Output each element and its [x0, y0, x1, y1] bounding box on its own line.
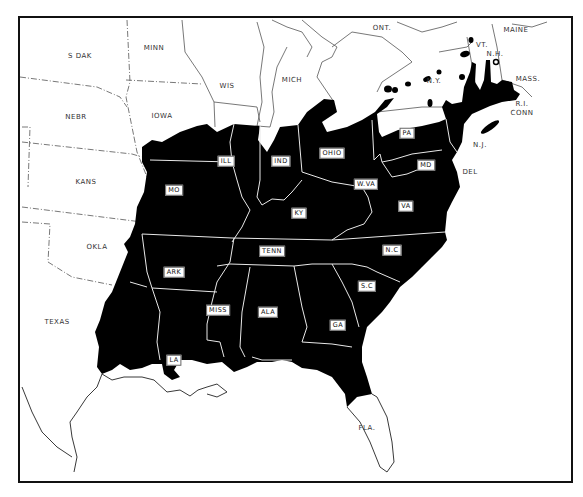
state-label-maine: MAINE	[503, 27, 528, 34]
great-lakes-outlines	[182, 20, 547, 127]
state-label-ark: ARK	[164, 267, 185, 278]
state-label-wis: WIS	[220, 83, 235, 90]
state-label-del: DEL	[462, 169, 477, 176]
coastline	[22, 374, 394, 472]
state-label-minn: MINN	[144, 45, 165, 52]
state-label-mich: MICH	[282, 77, 302, 84]
state-label-nj: N.J.	[473, 142, 487, 149]
state-label-miss: MISS	[206, 305, 230, 316]
state-label-okla: OKLA	[87, 244, 108, 251]
state-label-iowa: IOWA	[152, 113, 173, 120]
state-label-nebr: NEBR	[65, 114, 86, 121]
state-label-fla: FLA.	[359, 425, 376, 432]
state-label-nh: N.H.	[487, 51, 504, 58]
state-label-conn: CONN	[511, 110, 534, 117]
state-label-ind: IND	[271, 156, 290, 167]
state-label-wva: W.VA	[354, 179, 378, 190]
state-label-ont: ONT.	[373, 25, 391, 32]
state-label-texas: TEXAS	[44, 319, 69, 326]
state-label-kans: KANS	[76, 179, 97, 186]
state-label-pa: PA	[400, 128, 415, 139]
state-label-ala: ALA	[258, 307, 278, 318]
state-label-vt: VT.	[476, 42, 488, 49]
state-label-md: MD	[417, 160, 435, 171]
state-label-ny: N.Y.	[427, 78, 442, 85]
state-label-ri: R.I.	[515, 101, 528, 108]
state-label-tenn: TENN	[259, 246, 285, 257]
state-label-s-dak: S DAK	[68, 53, 92, 60]
state-label-mass: MASS.	[516, 76, 540, 83]
state-label-va: VA	[398, 201, 413, 212]
state-label-ohio: OHIO	[319, 148, 344, 159]
state-label-nc: N.C	[383, 245, 402, 256]
state-label-ky: KY	[291, 208, 306, 219]
state-label-la: LA	[166, 355, 181, 366]
state-label-mo: MO	[165, 185, 183, 196]
state-label-ill: ILL	[218, 156, 235, 167]
state-label-sc: S.C	[358, 281, 376, 292]
state-label-ga: GA	[330, 320, 346, 331]
map-frame: S DAKMINNWISMICHONT.MAINEVT.N.H.N.Y.MASS…	[18, 16, 573, 483]
